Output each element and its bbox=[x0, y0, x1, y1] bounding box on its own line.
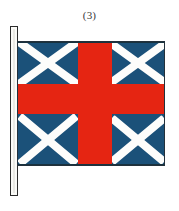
flag-top-edge bbox=[18, 42, 164, 43]
flag bbox=[17, 41, 165, 166]
flag-quadrant-bottom-left bbox=[18, 114, 78, 165]
flagpole-shading bbox=[13, 29, 15, 193]
flag-bottom-edge bbox=[18, 164, 164, 165]
red-cross-horizontal-band bbox=[18, 84, 164, 114]
flag-illustration-figure: (3) bbox=[0, 0, 179, 211]
figure-caption: (3) bbox=[0, 9, 179, 21]
flag-quadrant-bottom-right bbox=[112, 114, 164, 165]
flag-quadrant-top-right bbox=[112, 42, 164, 84]
flag-quadrant-top-left bbox=[18, 42, 78, 84]
